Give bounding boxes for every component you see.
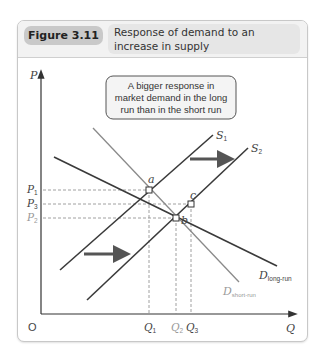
point-a-label: a	[148, 173, 155, 186]
point-c-label: c	[190, 189, 196, 202]
point-b-label: b	[181, 214, 188, 227]
x-axis-label: Q	[286, 322, 295, 335]
quantity-tick-q1: Q1	[144, 321, 157, 334]
s2-label: S2	[251, 142, 263, 155]
origin-label: O	[28, 321, 37, 333]
y-axis-label: P	[29, 69, 38, 82]
annotation-line-1: A bigger response in	[128, 80, 215, 91]
demand-long-run-curve	[54, 157, 277, 266]
quantity-tick-q3: Q3	[186, 321, 199, 334]
quantity-tick-q2: Q2	[171, 321, 184, 334]
annotation-box: A bigger response in market demand in th…	[106, 76, 236, 119]
d-long-run-label: Dlong-run	[258, 269, 292, 283]
price-tick-p1: P1	[26, 183, 38, 196]
annotation-line-3: run than in the short run	[121, 104, 222, 115]
annotation-line-2: market demand in the long	[115, 92, 227, 103]
d-short-run-label: Dshort-run	[222, 285, 256, 298]
supply-demand-diagram: A bigger response in market demand in th…	[0, 0, 323, 358]
demand-short-run-curve	[93, 128, 239, 282]
point-b-marker	[173, 215, 179, 221]
point-a-marker	[146, 187, 152, 193]
price-tick-p3: P3	[26, 197, 38, 210]
s1-label: S1	[216, 129, 228, 142]
price-tick-p2: P2	[26, 211, 38, 224]
